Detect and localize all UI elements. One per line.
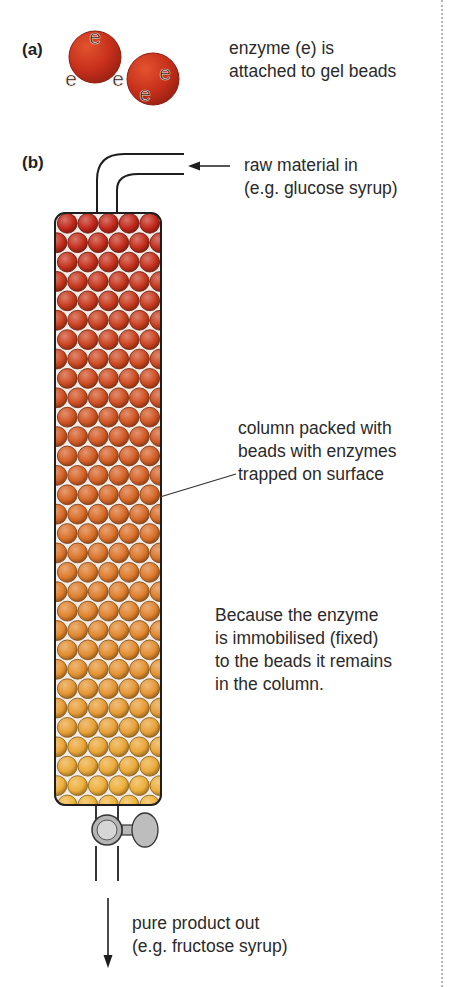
enzyme-marker: e bbox=[65, 67, 77, 90]
packed-bead bbox=[140, 330, 160, 350]
column-label-line-2: beads with enzymes bbox=[238, 441, 397, 462]
packed-bead bbox=[119, 485, 139, 505]
packed-bead bbox=[68, 698, 88, 718]
packed-bead bbox=[160, 756, 180, 776]
packed-bead bbox=[99, 252, 119, 272]
packed-bead bbox=[130, 737, 150, 757]
packed-bead bbox=[109, 233, 129, 253]
packed-bead bbox=[88, 272, 108, 292]
packed-bead bbox=[78, 446, 98, 466]
inlet-label-line-1: raw material in bbox=[244, 155, 358, 176]
packed-bead bbox=[78, 213, 98, 233]
arrow-down-icon bbox=[104, 898, 113, 968]
packed-bead bbox=[140, 213, 160, 233]
outlet-label-line-1: pure product out bbox=[132, 913, 259, 934]
packed-bead bbox=[130, 621, 150, 641]
packed-bead bbox=[78, 407, 98, 427]
packed-bead bbox=[109, 582, 129, 602]
explanation-line-1: Because the enzyme bbox=[215, 605, 378, 626]
packed-bead bbox=[109, 310, 129, 330]
packed-bead bbox=[57, 369, 77, 389]
packed-bead bbox=[109, 465, 129, 485]
packed-bead bbox=[99, 291, 119, 311]
outlet-label-line-2: (e.g. fructose syrup) bbox=[132, 936, 288, 957]
explanation-line-4: in the column. bbox=[215, 674, 324, 695]
packed-bead bbox=[140, 252, 160, 272]
packed-bead bbox=[119, 524, 139, 544]
packed-bead bbox=[57, 213, 77, 233]
packed-bead bbox=[119, 369, 139, 389]
packed-bead bbox=[99, 679, 119, 699]
packed-bead bbox=[78, 369, 98, 389]
part-b-label: (b) bbox=[22, 153, 44, 173]
packed-bead bbox=[78, 252, 98, 272]
packed-bead bbox=[119, 679, 139, 699]
packed-bead bbox=[109, 543, 129, 563]
packed-bead bbox=[130, 427, 150, 447]
packed-bead bbox=[130, 310, 150, 330]
packed-bead bbox=[78, 524, 98, 544]
packed-bead bbox=[130, 543, 150, 563]
packed-bead bbox=[119, 640, 139, 660]
packed-bead bbox=[130, 465, 150, 485]
packed-bead bbox=[88, 504, 108, 524]
packed-bead bbox=[109, 349, 129, 369]
immobilised-enzyme-diagram: eeeee bbox=[0, 0, 451, 987]
packed-bead bbox=[109, 776, 129, 796]
packed-bead bbox=[68, 737, 88, 757]
packed-bead bbox=[160, 718, 180, 738]
packed-bead bbox=[57, 252, 77, 272]
packed-bead bbox=[130, 388, 150, 408]
packed-bead bbox=[57, 718, 77, 738]
packed-bead bbox=[99, 485, 119, 505]
packed-bead bbox=[130, 659, 150, 679]
packed-bead bbox=[130, 698, 150, 718]
packed-bead bbox=[119, 330, 139, 350]
packed-bead bbox=[47, 582, 67, 602]
bead-caption-line-2: attached to gel beads bbox=[229, 61, 396, 82]
packed-bead bbox=[130, 504, 150, 524]
column-label-leader bbox=[160, 474, 236, 497]
packed-bead bbox=[99, 446, 119, 466]
packed-bead bbox=[119, 213, 139, 233]
gel-bead bbox=[127, 53, 179, 105]
inlet-pipe bbox=[97, 154, 184, 213]
packed-bead bbox=[68, 659, 88, 679]
packed-bead bbox=[47, 349, 67, 369]
packed-bead bbox=[119, 407, 139, 427]
packed-bead bbox=[47, 776, 67, 796]
packed-bead bbox=[99, 213, 119, 233]
packed-bead bbox=[99, 601, 119, 621]
packed-bead bbox=[140, 524, 160, 544]
packed-bead bbox=[88, 582, 108, 602]
enzyme-marker: e bbox=[159, 61, 171, 84]
packed-bead bbox=[68, 582, 88, 602]
packed-bead bbox=[119, 446, 139, 466]
arrow-left-icon bbox=[188, 162, 230, 171]
packed-bead bbox=[160, 601, 180, 621]
packed-bead bbox=[140, 718, 160, 738]
packed-bead bbox=[119, 562, 139, 582]
packed-bead bbox=[47, 427, 67, 447]
packed-bead bbox=[68, 310, 88, 330]
packed-bead bbox=[99, 369, 119, 389]
packed-bead bbox=[57, 485, 77, 505]
packed-bead bbox=[88, 349, 108, 369]
packed-bead bbox=[130, 776, 150, 796]
packed-bead bbox=[88, 659, 108, 679]
packed-bead bbox=[88, 543, 108, 563]
packed-bead bbox=[47, 504, 67, 524]
packed-bead bbox=[68, 233, 88, 253]
packed-bead bbox=[160, 562, 180, 582]
packed-bead bbox=[47, 272, 67, 292]
packed-bead bbox=[130, 233, 150, 253]
packed-bead bbox=[68, 543, 88, 563]
packed-bead bbox=[47, 698, 67, 718]
column-label-line-1: column packed with bbox=[238, 418, 392, 439]
packed-bead bbox=[160, 252, 180, 272]
packed-bead bbox=[68, 388, 88, 408]
packed-bead bbox=[78, 330, 98, 350]
packed-bead bbox=[99, 756, 119, 776]
packed-bead bbox=[119, 601, 139, 621]
packed-bead bbox=[160, 213, 180, 233]
